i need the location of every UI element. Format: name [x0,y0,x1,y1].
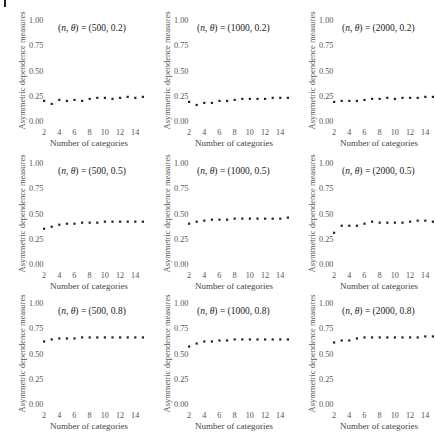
x-tick-label: 10 [246,411,254,420]
y-tick-label: 0.00 [174,117,188,126]
chart-panel: Asymmetric dependence measures0.000.250.… [145,0,290,148]
x-tick-label: 12 [261,411,269,420]
data-point [127,221,129,223]
data-point [119,221,121,223]
x-tick-label: 2 [332,411,336,420]
chart-panel: Asymmetric dependence measures0.000.250.… [0,283,145,431]
data-point [73,223,75,225]
data-point [272,218,274,220]
data-point [249,218,251,220]
y-tick-label: 0.75 [319,184,333,193]
data-point [287,217,289,219]
y-tick-label: 0.50 [174,67,188,76]
data-point [394,222,396,224]
data-point [134,221,136,223]
x-tick-label: 2 [187,411,191,420]
data-point [96,336,98,338]
x-tick-label: 6 [72,128,76,137]
x-tick-label: 14 [421,411,429,420]
x-tick-label: 14 [131,128,139,137]
data-point [66,100,68,102]
y-tick-label: 0.50 [29,210,43,219]
data-point [386,336,388,338]
data-point [211,340,213,342]
data-point [371,221,373,223]
data-point [287,338,289,340]
x-tick-label: 2 [42,128,46,137]
x-tick-label: 12 [406,128,414,137]
x-tick-label: 8 [233,411,237,420]
x-tick-label: 14 [276,411,284,420]
y-tick-label: 0.00 [29,260,43,269]
data-point [51,103,53,105]
data-point [188,101,190,103]
y-tick-label: 0.25 [174,92,188,101]
data-point [279,218,281,220]
data-point [134,97,136,99]
y-tick-label: 0.25 [319,375,333,384]
data-point [43,340,45,342]
y-axis-label: Asymmetric dependence measures [162,154,172,272]
data-point [211,102,213,104]
y-tick-label: 0.00 [29,400,43,409]
data-point [417,97,419,99]
x-tick-label: 4 [57,271,61,280]
y-tick-label: 1.00 [319,299,333,308]
x-tick-label: 10 [101,271,109,280]
x-tick-label: 8 [88,271,92,280]
data-point [371,336,373,338]
y-tick-label: 0.00 [174,260,188,269]
y-tick-label: 0.25 [29,375,43,384]
data-point [119,97,121,99]
data-point [409,97,411,99]
y-tick-label: 0.00 [319,260,333,269]
x-tick-label: 12 [261,271,269,280]
data-point [401,97,403,99]
data-point [264,338,266,340]
data-point [348,100,350,102]
data-point [58,99,60,101]
chart-panel: Asymmetric dependence measures0.000.250.… [0,0,145,148]
data-point [424,220,426,222]
x-tick-label: 8 [378,411,382,420]
data-point [226,339,228,341]
data-point [188,223,190,225]
data-point [272,97,274,99]
data-point [379,98,381,100]
x-tick-label: 10 [246,128,254,137]
x-tick-label: 10 [246,271,254,280]
data-point [356,100,358,102]
data-point [142,221,144,223]
data-point [249,338,251,340]
panel-title: (n, θ) = (1000, 0.2) [197,23,270,34]
data-point [89,98,91,100]
y-tick-label: 0.75 [319,41,333,50]
x-tick-label: 4 [347,411,351,420]
data-point [417,220,419,222]
y-tick-label: 1.00 [319,159,333,168]
x-tick-label: 6 [217,411,221,420]
data-point [111,98,113,100]
y-tick-label: 0.25 [29,92,43,101]
x-tick-label: 12 [406,411,414,420]
x-axis-label: Number of categories [50,421,128,431]
data-point [203,102,205,104]
data-point [234,99,236,101]
data-point [43,228,45,230]
data-point [363,336,365,338]
data-point [127,96,129,98]
x-tick-label: 10 [101,128,109,137]
x-tick-label: 10 [101,411,109,420]
data-point [196,342,198,344]
data-point [432,221,434,223]
panel-title: (n, θ) = (2000, 0.8) [342,306,415,317]
data-point [379,222,381,224]
data-point [218,100,220,102]
data-point [104,336,106,338]
x-axis-label: Number of categories [340,421,418,431]
data-point [424,96,426,98]
x-tick-label: 8 [88,411,92,420]
y-tick-label: 0.25 [319,235,333,244]
data-point [256,338,258,340]
x-tick-label: 4 [347,271,351,280]
